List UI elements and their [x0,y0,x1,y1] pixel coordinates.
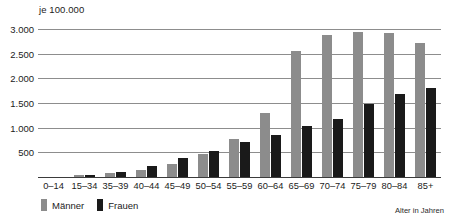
legend-item: Männer [41,199,84,211]
bar-group [415,30,436,178]
axis-caption: Alter in Jahren [395,206,444,215]
x-axis-tick-label: 15–34 [72,181,98,191]
bar-group [291,30,312,178]
bar-male [384,33,394,178]
bar-female [302,126,312,178]
y-axis-tick-label: 2.500 [0,48,34,59]
y-axis-tick-label: 500 [0,147,34,158]
bar-group [198,30,219,178]
bar-group [43,30,64,178]
x-axis-tick-label: 55–59 [227,181,253,191]
x-axis-tick-label: 65–69 [289,181,315,191]
legend-swatch-icon [41,199,47,211]
bar-female [395,94,405,178]
bar-female [209,151,219,178]
legend-item: Frauen [97,199,138,211]
bar-male [167,164,177,178]
bar-group [322,30,343,178]
legend: MännerFrauen [41,199,138,211]
bar-female [178,158,188,178]
bar-chart: je 100.000 5001.0001.5002.0002.5003.000 … [0,0,454,223]
legend-label: Männer [52,200,84,211]
x-axis-tick-label: 75–79 [351,181,377,191]
bar-female [240,142,250,178]
bar-group [260,30,281,178]
x-axis-tick-label: 60–64 [258,181,284,191]
x-axis-tick-label: 0–14 [43,181,64,191]
bar-female [426,88,436,178]
bar-group [167,30,188,178]
x-axis-tick-label: 70–74 [320,181,346,191]
bar-female [364,104,374,178]
bar-group [384,30,405,178]
x-axis-tick-label: 50–54 [196,181,222,191]
bar-female [271,135,281,178]
bar-male [291,51,301,178]
x-axis-tick-label: 80–84 [382,181,408,191]
bar-male [322,35,332,178]
x-axis-labels: 0–1415–3435–3940–4445–4950–5455–5960–646… [38,181,441,195]
bar-female [333,119,343,178]
bar-male [229,139,239,178]
bar-group [136,30,157,178]
unit-caption: je 100.000 [39,4,84,15]
x-axis-tick-label: 35–39 [103,181,129,191]
bar-group [105,30,126,178]
x-axis-tick-label: 40–44 [134,181,160,191]
legend-swatch-icon [97,199,103,211]
x-axis-tick-label: 85+ [418,181,434,191]
x-axis-tick-label: 45–49 [165,181,191,191]
bar-male [198,154,208,178]
y-axis-tick-label: 1.500 [0,98,34,109]
legend-label: Frauen [108,200,138,211]
bar-male [260,113,270,178]
bar-male [415,43,425,178]
plot-area [38,29,441,178]
bar-male [353,32,363,178]
bar-group [353,30,374,178]
y-axis-tick-label: 3.000 [0,24,34,35]
y-axis-tick-label: 1.000 [0,122,34,133]
x-axis-line [38,177,441,178]
bar-group [229,30,250,178]
y-axis-tick-label: 2.000 [0,73,34,84]
bar-group [74,30,95,178]
